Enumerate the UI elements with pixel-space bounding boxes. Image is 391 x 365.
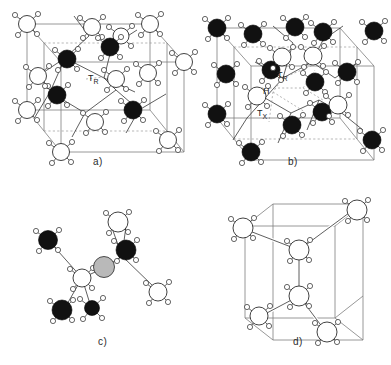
site-label-h-b: H	[263, 86, 270, 96]
site-label-tr-a: TR	[88, 73, 99, 85]
panel-caption-d: d)	[293, 336, 303, 347]
panel-caption-b: b)	[288, 156, 298, 167]
site-label-tx-b: TX	[257, 108, 267, 120]
light-atoms-a	[12, 11, 197, 165]
hydrogen-atom-c	[94, 257, 115, 278]
figure-container: TR a)	[0, 0, 391, 365]
panel-caption-c: c)	[98, 336, 107, 347]
site-label-tr-b: TR	[277, 70, 288, 82]
panel-caption-a: a)	[93, 156, 103, 167]
